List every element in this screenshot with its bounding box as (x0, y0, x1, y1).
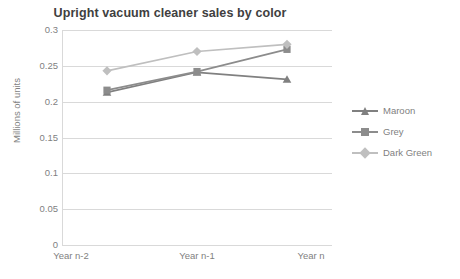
y-tick-label: 0.15 (18, 133, 58, 143)
legend-item-dark-green[interactable]: Dark Green (352, 142, 456, 163)
x-tick-label: Year n (266, 250, 356, 261)
data-point (102, 66, 111, 75)
gridline (62, 245, 332, 246)
x-tick-label: Year n-1 (152, 250, 242, 261)
series-plot (62, 30, 332, 245)
y-tick-label: 0 (18, 240, 58, 250)
legend-marker (359, 147, 370, 158)
chart-title: Upright vacuum cleaner sales by color (0, 6, 340, 20)
y-tick-label: 0.3 (18, 25, 58, 35)
legend-marker (361, 107, 369, 115)
y-axis-tick-labels: 0.3 0.25 0.2 0.15 0.1 0.05 0 (14, 30, 58, 245)
data-point (193, 68, 200, 75)
legend-marker-diamond-icon (352, 147, 378, 159)
plot-area (62, 30, 332, 245)
chart-legend: Maroon Grey Dark Green (352, 100, 456, 163)
data-point (192, 47, 201, 56)
y-tick-label: 0.25 (18, 61, 58, 71)
x-tick-label: Year n-2 (26, 250, 116, 261)
legend-label: Grey (383, 126, 404, 137)
legend-marker (361, 128, 369, 136)
y-tick-label: 0.2 (18, 97, 58, 107)
data-point (103, 87, 110, 94)
chart-container: Upright vacuum cleaner sales by color Mi… (0, 0, 460, 279)
legend-item-maroon[interactable]: Maroon (352, 100, 456, 121)
y-tick-label: 0.05 (18, 204, 58, 214)
y-tick-label: 0.1 (18, 168, 58, 178)
legend-label: Dark Green (383, 147, 432, 158)
legend-label: Maroon (383, 105, 415, 116)
legend-marker-square-icon (352, 126, 378, 138)
legend-marker-triangle-icon (352, 105, 378, 117)
legend-item-grey[interactable]: Grey (352, 121, 456, 142)
